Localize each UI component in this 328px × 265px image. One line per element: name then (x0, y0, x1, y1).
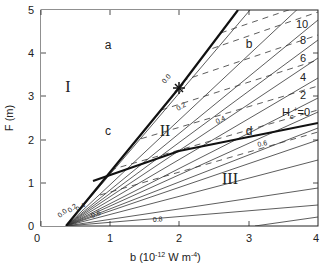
x-tick-3: 3 (246, 232, 252, 244)
y-tick-2: 2 (28, 134, 34, 146)
x-tick-1: 1 (107, 232, 113, 244)
chart: 0 1 2 3 4 0 1 2 3 4 5 F (m) b (10-12 W m… (0, 0, 328, 265)
dashed-label-8: 8 (300, 34, 306, 46)
dashed-label-10: 10 (296, 18, 308, 30)
contour-label-0.8: 0.8 (152, 215, 162, 223)
y-tick-3: 3 (28, 90, 34, 102)
x-tick-0: 0 (34, 232, 40, 244)
y-tick-5: 5 (28, 4, 34, 16)
region-III-label: III (222, 170, 238, 187)
x-tick-4: 4 (313, 232, 319, 244)
x-axis-label: b (10-12 W m-4) (130, 251, 201, 263)
y-axis-label: F (m) (3, 105, 15, 131)
region-II-label: II (160, 122, 171, 139)
point-b-label: b (246, 37, 253, 51)
point-a-label: a (105, 38, 112, 52)
y-tick-1: 1 (28, 177, 34, 189)
contour-label-0.6: 0.6 (257, 139, 268, 148)
dashed-label-2: 2 (300, 89, 306, 101)
x-tick-2: 2 (176, 232, 182, 244)
y-tick-4: 4 (28, 47, 34, 59)
region-I-label: I (65, 78, 70, 95)
dashed-label-4: 4 (300, 71, 306, 83)
hc-annotation: Hc+=0 (282, 106, 310, 120)
dashed-label-6: 6 (300, 52, 306, 64)
point-d-label: d (246, 124, 253, 138)
contours (41, 0, 318, 226)
point-c-label: c (105, 124, 111, 138)
y-tick-0: 0 (28, 220, 34, 232)
